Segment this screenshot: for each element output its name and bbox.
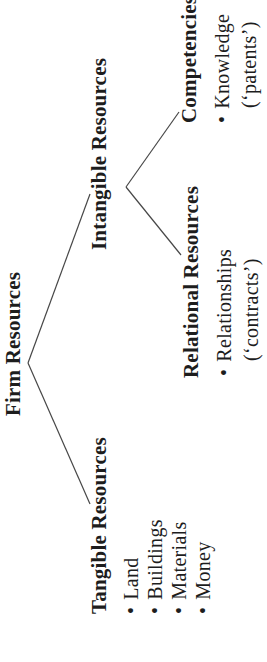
list-item-relationships: •Relationships — [211, 249, 238, 376]
bullet-icon: • — [167, 607, 191, 614]
connector-intangible-to-competencies — [126, 112, 179, 187]
node-intangible-resources: Intangible Resources — [87, 58, 111, 250]
competencies-items-list: •Knowledge (‘patents’) — [209, 14, 263, 123]
list-item-materials: •Materials — [167, 519, 191, 614]
bullet-icon: • — [211, 369, 238, 376]
connector-intangible-to-relational — [126, 187, 181, 255]
list-item-label: Relationships — [213, 249, 235, 362]
list-item-money: •Money — [191, 519, 215, 614]
list-item-label: Buildings — [144, 519, 166, 600]
connector-root-to-intangible — [28, 194, 90, 363]
list-item-knowledge: •Knowledge — [209, 14, 236, 123]
bullet-icon: • — [191, 607, 215, 614]
node-tangible-resources: Tangible Resources — [87, 437, 111, 614]
list-item-label: Land — [120, 557, 142, 599]
firm-resources-tree-diagram: Firm Resources Tangible Resources •Land … — [0, 0, 267, 662]
list-item-land: •Land — [119, 519, 143, 614]
list-item-buildings: •Buildings — [143, 519, 167, 614]
list-item-label: Money — [192, 542, 214, 600]
bullet-icon: • — [143, 607, 167, 614]
node-competencies: Competencies — [177, 0, 201, 123]
list-item-patents: (‘patents’) — [236, 14, 263, 123]
node-firm-resources: Firm Resources — [1, 272, 25, 416]
list-item-label: Knowledge — [211, 14, 233, 109]
page: Firm Resources Tangible Resources •Land … — [0, 0, 267, 662]
bullet-icon: • — [119, 607, 143, 614]
connector-root-to-tangible — [28, 363, 90, 504]
list-item-contracts: (‘contracts’) — [238, 249, 265, 376]
list-item-label: Materials — [168, 521, 190, 599]
bullet-icon: • — [209, 116, 236, 123]
node-relational-resources: Relational Resources — [179, 186, 203, 378]
relational-items-list: •Relationships (‘contracts’) — [211, 249, 265, 376]
tangible-items-list: •Land •Buildings •Materials •Money — [119, 519, 215, 614]
